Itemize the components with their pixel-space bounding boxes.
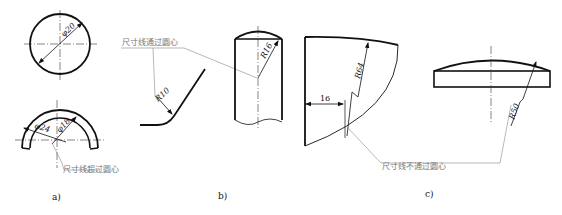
panel-b: 尺寸线通过圆心 R10 R16 b) [121, 26, 282, 201]
dim-r16: R16 [258, 41, 274, 60]
dim-r10: R10 [153, 86, 172, 104]
cylinder-r16: R16 [235, 26, 282, 128]
note-a: 尺寸线超过圆心 [63, 164, 119, 174]
panel-label-c: c) [425, 189, 434, 199]
panel-c: 16 R64 尺寸线不通过圆心 R50 c) [305, 37, 550, 199]
panel-label-a: a) [52, 192, 61, 202]
note-b: 尺寸线通过圆心 [122, 37, 178, 47]
technical-drawing: φ20 φ24 φ18 尺寸线超过圆心 a) 尺寸线通过圆心 [0, 0, 562, 215]
ring-phi24-phi18: φ24 φ18 尺寸线超过圆心 [15, 100, 119, 174]
lens-r50: R50 [434, 46, 550, 126]
dim-16: 16 [320, 94, 330, 103]
panel-a: φ20 φ24 φ18 尺寸线超过圆心 a) [15, 10, 119, 202]
dim-phi20: φ20 [59, 21, 77, 38]
circle-phi20: φ20 [24, 10, 97, 80]
dim-r50: R50 [507, 102, 521, 121]
panel-label-b: b) [218, 191, 227, 201]
dim-r64: R64 [353, 62, 366, 81]
fillet-r10: R10 [140, 69, 205, 125]
arc-shape-r64: 16 R64 [305, 37, 398, 146]
note-c: 尺寸线不通过圆心 [382, 161, 446, 171]
